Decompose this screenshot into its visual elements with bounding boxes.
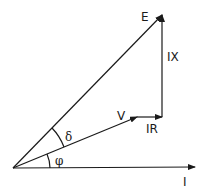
phasor-diagram: E IX V IR I δ φ bbox=[0, 0, 203, 194]
phi-angle-arc bbox=[47, 154, 50, 168]
label-v: V bbox=[117, 109, 126, 123]
label-ix: IX bbox=[167, 50, 179, 64]
current-vector-i bbox=[13, 167, 195, 168]
label-ir: IR bbox=[146, 122, 158, 136]
voltage-vector-v bbox=[13, 117, 137, 168]
delta-angle-arc bbox=[52, 128, 64, 147]
label-i: I bbox=[183, 175, 187, 189]
label-delta: δ bbox=[65, 130, 72, 144]
label-phi: φ bbox=[55, 154, 63, 168]
label-e: E bbox=[141, 10, 149, 24]
emf-vector-e bbox=[13, 15, 162, 168]
